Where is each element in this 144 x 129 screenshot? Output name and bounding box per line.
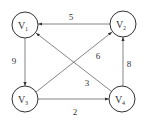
- graph-diagram: 5 9 6 3 2 8 V1 V2 V3 V4: [0, 0, 144, 129]
- edge-weight-v4-v2: 8: [127, 59, 132, 69]
- edge-weight-v3-v2: 6: [96, 51, 101, 61]
- node-v2: V2: [110, 11, 136, 37]
- edge-v2-v1: 5: [38, 12, 110, 24]
- edge-v3-v4: 2: [38, 99, 109, 117]
- edge-weight-v2-v1: 5: [69, 12, 74, 22]
- edge-weight-v1-v3: 9: [12, 56, 17, 66]
- node-v1: V1: [12, 12, 38, 38]
- edge-v1-v3: 9: [12, 38, 25, 86]
- node-v4: V4: [109, 86, 135, 112]
- edge-weight-v4-v1: 3: [85, 78, 90, 88]
- node-v3: V3: [12, 86, 38, 112]
- edge-v4-v2: 8: [123, 37, 132, 86]
- edge-weight-v3-v4: 2: [73, 107, 78, 117]
